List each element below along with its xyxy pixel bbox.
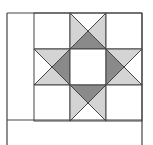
quilt-cell-r0c1 [70,13,106,49]
quilt-block-diagram [0,0,153,145]
plain-square [70,49,106,85]
quilt-cells [34,13,142,121]
plain-square [34,13,70,49]
quilt-cell-r2c1 [70,85,106,121]
quilt-cell-r1c1 [70,49,106,85]
plain-square [34,85,70,121]
quilt-cell-r0c2 [106,13,142,49]
quilt-cell-r1c2 [106,49,142,85]
quilt-cell-r0c0 [34,13,70,49]
quilt-cell-r1c0 [34,49,70,85]
plain-square [106,85,142,121]
plain-square [106,13,142,49]
quilt-cell-r2c2 [106,85,142,121]
quilt-cell-r2c0 [34,85,70,121]
